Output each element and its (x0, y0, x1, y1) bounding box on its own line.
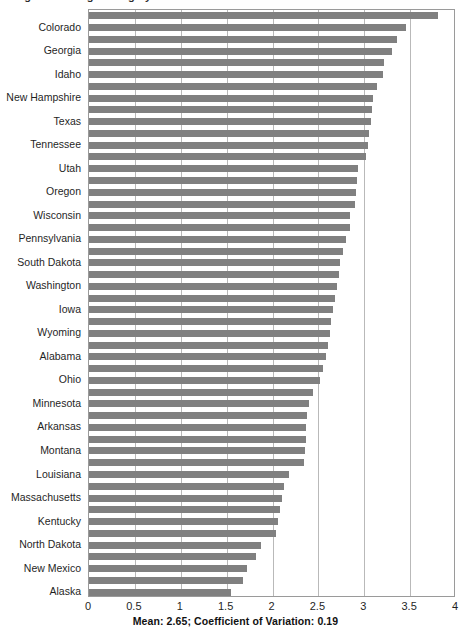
bar-row (89, 139, 454, 151)
bar (89, 259, 340, 266)
cropped-title-text: Figure: Average rating by state (14, 0, 181, 2)
bar (89, 59, 384, 66)
bar-row (89, 22, 454, 34)
bar-row (89, 69, 454, 81)
bar (89, 459, 304, 466)
y-tick-label: Pennsylvania (19, 233, 81, 244)
bar (89, 95, 373, 102)
x-tick-label: 2.5 (310, 600, 325, 612)
bar-row (89, 10, 454, 22)
bar (89, 48, 392, 55)
bar-row (89, 386, 454, 398)
bar (89, 71, 383, 78)
bar (89, 189, 356, 196)
bar-row (89, 586, 454, 598)
bar-row (89, 398, 454, 410)
bar-row (89, 233, 454, 245)
bar-row (89, 128, 454, 140)
y-tick-label: Wisconsin (33, 209, 81, 220)
bar-row (89, 151, 454, 163)
bar-row (89, 339, 454, 351)
y-tick-label: Louisiana (36, 468, 81, 479)
y-tick-label: Montana (40, 445, 81, 456)
bar-row (89, 527, 454, 539)
bar (89, 377, 320, 384)
y-tick-label: Ohio (59, 374, 81, 385)
bar-row (89, 445, 454, 457)
y-tick-label: Texas (54, 115, 81, 126)
x-tick-label: 1.5 (218, 600, 233, 612)
bar-row (89, 433, 454, 445)
bar-row (89, 469, 454, 481)
bar-row (89, 304, 454, 316)
y-tick-label: South Dakota (17, 256, 81, 267)
bar-row (89, 422, 454, 434)
bar (89, 412, 307, 419)
bar-row (89, 457, 454, 469)
bar (89, 177, 357, 184)
bar (89, 295, 335, 302)
x-axis-ticks: 00.511.522.533.54 (88, 600, 455, 614)
bar (89, 330, 330, 337)
y-tick-label: Utah (59, 162, 81, 173)
bar (89, 12, 438, 19)
bar (89, 106, 372, 113)
bar-series (89, 10, 454, 596)
bar (89, 153, 366, 160)
bar-row (89, 222, 454, 234)
bar-row (89, 551, 454, 563)
bar-row (89, 574, 454, 586)
bar-row (89, 563, 454, 575)
bar (89, 518, 278, 525)
y-tick-label: New Mexico (24, 562, 81, 573)
bar (89, 201, 355, 208)
y-tick-label: Alaska (49, 586, 81, 597)
bar (89, 142, 368, 149)
x-tick-label: 4 (452, 600, 458, 612)
bar (89, 553, 256, 560)
bar (89, 248, 343, 255)
bar-row (89, 539, 454, 551)
bar-row (89, 34, 454, 46)
bar-row (89, 175, 454, 187)
bar (89, 283, 337, 290)
y-tick-label: New Hampshire (6, 92, 81, 103)
bar (89, 424, 306, 431)
bar-chart: Figure: Average rating by state Colorado… (0, 0, 471, 631)
y-tick-label: Iowa (59, 303, 81, 314)
bar-row (89, 210, 454, 222)
bar (89, 212, 350, 219)
bar (89, 589, 231, 596)
bar-row (89, 92, 454, 104)
bar-row (89, 375, 454, 387)
chart-annotation: Mean: 2.65; Coefficient of Variation: 0.… (0, 615, 471, 627)
bar (89, 271, 339, 278)
bar-row (89, 45, 454, 57)
bar-row (89, 410, 454, 422)
x-tick-label: 3.5 (401, 600, 416, 612)
y-tick-label: Washington (26, 280, 81, 291)
bar-row (89, 81, 454, 93)
bar-row (89, 163, 454, 175)
bar (89, 306, 333, 313)
bar-row (89, 504, 454, 516)
bar (89, 495, 282, 502)
bar (89, 471, 289, 478)
bar (89, 565, 247, 572)
x-tick-label: 3 (360, 600, 366, 612)
plot-area (88, 9, 455, 597)
bar (89, 318, 331, 325)
bar-row (89, 492, 454, 504)
y-tick-label: Georgia (44, 45, 81, 56)
y-tick-label: Oregon (46, 186, 81, 197)
bar (89, 118, 371, 125)
bar (89, 24, 406, 31)
y-tick-label: Kentucky (38, 515, 81, 526)
bar-row (89, 316, 454, 328)
bar (89, 483, 284, 490)
bar (89, 236, 346, 243)
x-tick-label: 1 (177, 600, 183, 612)
bar-row (89, 516, 454, 528)
bar (89, 542, 261, 549)
y-tick-label: Massachusetts (11, 492, 81, 503)
